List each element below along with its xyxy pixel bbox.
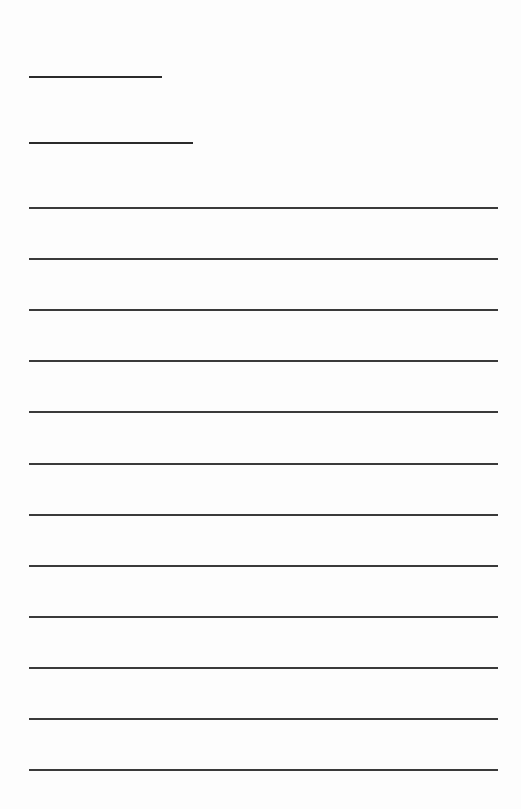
writing-line xyxy=(29,616,498,618)
writing-line xyxy=(29,565,498,567)
writing-line xyxy=(29,309,498,311)
writing-line xyxy=(29,769,498,771)
writing-line xyxy=(29,667,498,669)
writing-line xyxy=(29,514,498,516)
writing-line xyxy=(29,463,498,465)
writing-line xyxy=(29,411,498,413)
writing-line xyxy=(29,718,498,720)
writing-line xyxy=(29,207,498,209)
writing-line xyxy=(29,258,498,260)
header-field-line-1 xyxy=(29,76,162,78)
header-field-line-2 xyxy=(29,142,193,144)
writing-line xyxy=(29,360,498,362)
